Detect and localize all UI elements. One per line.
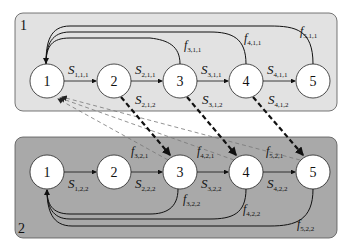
svg-text:5: 5 (310, 165, 317, 180)
panel-2-node-3: 3 (163, 155, 197, 189)
svg-text:4: 4 (243, 165, 250, 180)
panel-1-node-1: 1 (30, 64, 64, 98)
panel-1-node-5: 5 (296, 64, 330, 98)
panel-2-node-1: 1 (30, 155, 64, 189)
diagram-canvas: 1 2 1 2 3 4 (0, 0, 353, 248)
svg-text:1: 1 (44, 165, 51, 180)
panel-2-label: 2 (18, 221, 25, 236)
svg-text:3: 3 (177, 165, 184, 180)
panel-2-node-4: 4 (229, 155, 263, 189)
svg-text:2: 2 (111, 74, 118, 89)
panel-1-node-3: 3 (163, 64, 197, 98)
svg-text:3: 3 (177, 74, 184, 89)
svg-text:2: 2 (111, 165, 118, 180)
panel-1-node-4: 4 (229, 64, 263, 98)
svg-text:4: 4 (243, 74, 250, 89)
panel-1-node-2: 2 (97, 64, 131, 98)
panel-2-node-2: 2 (97, 155, 131, 189)
panel-2-node-5: 5 (296, 155, 330, 189)
svg-text:1: 1 (44, 74, 51, 89)
svg-text:5: 5 (310, 74, 317, 89)
state-transition-diagram: 1 2 1 2 3 4 (0, 0, 353, 248)
panel-1-label: 1 (20, 18, 27, 33)
